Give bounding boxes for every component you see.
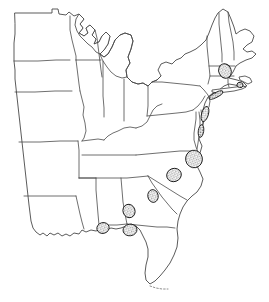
site-marker-02 xyxy=(236,82,243,88)
landmass-group xyxy=(14,9,256,284)
eastern-us-distribution-map xyxy=(0,0,269,302)
map-canvas xyxy=(0,0,269,302)
eastern-us-landmass xyxy=(14,9,256,284)
florida-keys xyxy=(150,286,168,289)
